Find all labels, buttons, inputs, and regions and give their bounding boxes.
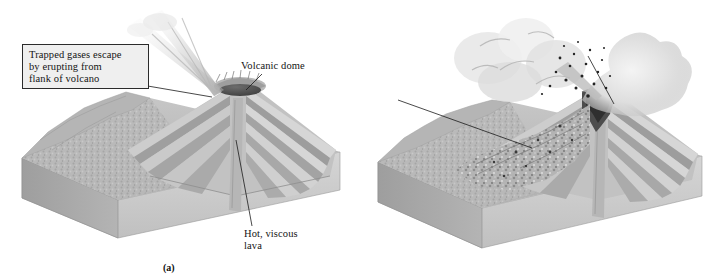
panel-a: Trapped gases escape by erupting from fl… <box>0 0 360 279</box>
panel-b-illustration <box>360 0 721 279</box>
label-hot-viscous-lava: Hot, viscous lava <box>244 228 298 252</box>
ash-cloud-mass-b <box>582 32 692 116</box>
plume-puff-a2 <box>127 23 153 37</box>
callout-flank-eruption: Trapped gases escape by erupting from fl… <box>22 44 149 89</box>
panel-caption-a: (a) <box>163 262 175 273</box>
panel-a-illustration <box>0 0 360 279</box>
label-volcanic-dome: Volcanic dome <box>241 60 305 72</box>
dome-crater-a <box>219 84 261 96</box>
ash-lobe-b4 <box>478 62 542 102</box>
volcano-figure: Trapped gases escape by erupting from fl… <box>0 0 721 279</box>
panel-b: Trapped gases explode out, destroying vo… <box>360 0 720 279</box>
